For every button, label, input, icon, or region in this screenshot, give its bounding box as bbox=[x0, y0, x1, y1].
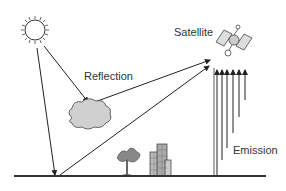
cloud-icon bbox=[69, 99, 111, 129]
emission-arrows bbox=[217, 70, 245, 175]
tree-icon bbox=[117, 148, 140, 176]
remote-sensing-diagram bbox=[0, 0, 286, 191]
label-emission: Emission bbox=[233, 144, 278, 156]
label-satellite: Satellite bbox=[174, 26, 213, 38]
sun-to-ground-arrow bbox=[37, 48, 55, 175]
satellite-icon bbox=[216, 25, 252, 56]
buildings-icon bbox=[150, 144, 171, 176]
label-reflection: Reflection bbox=[84, 70, 133, 82]
sun-to-cloud-arrow bbox=[44, 46, 88, 102]
sun-icon bbox=[21, 16, 49, 44]
